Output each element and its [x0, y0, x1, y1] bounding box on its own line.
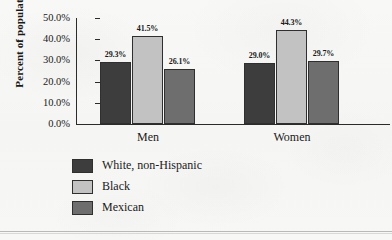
bar-value-label: 29.0%	[238, 52, 281, 60]
y-axis-tick-mark	[95, 39, 100, 40]
y-axis-tick-label: 30.0%	[24, 55, 70, 65]
bar	[244, 63, 275, 124]
footer-divider	[0, 231, 392, 232]
y-axis-tick-label: 10.0%	[24, 98, 70, 108]
x-axis-group-label: Men	[98, 130, 198, 145]
legend-item-label: Mexican	[102, 200, 144, 215]
bar	[132, 36, 163, 124]
footer-divider-shadow	[0, 233, 392, 234]
legend-item-label: Black	[102, 179, 130, 194]
bar-value-label: 26.1%	[158, 58, 201, 66]
bar	[100, 62, 131, 124]
y-axis-tick-label: 50.0%	[24, 13, 70, 23]
y-axis-tick-label: 0.0%	[24, 119, 70, 129]
bar-value-label: 29.7%	[302, 50, 345, 58]
legend-color-swatch	[72, 159, 93, 173]
y-axis-tick-label: 20.0%	[24, 77, 70, 87]
y-axis-tick-labels: 50.0%40.0%30.0%20.0%10.0%0.0%	[24, 14, 70, 124]
bar-value-label: 29.3%	[94, 51, 137, 59]
bar-value-label: 44.3%	[270, 19, 313, 27]
legend-color-swatch	[72, 180, 93, 194]
bar	[308, 61, 339, 124]
y-axis-tick-label: 40.0%	[24, 34, 70, 44]
x-axis-baseline	[76, 124, 390, 125]
bar	[164, 69, 195, 124]
legend-color-swatch	[72, 201, 93, 215]
bar	[276, 30, 307, 124]
y-axis-line	[76, 18, 77, 125]
bar-value-label: 41.5%	[126, 25, 169, 33]
chart-figure: Percent of population 50.0%40.0%30.0%20.…	[0, 0, 392, 240]
x-axis-group-label: Women	[242, 130, 342, 145]
y-axis-tick-mark	[95, 18, 100, 19]
legend-item-label: White, non-Hispanic	[102, 158, 202, 173]
